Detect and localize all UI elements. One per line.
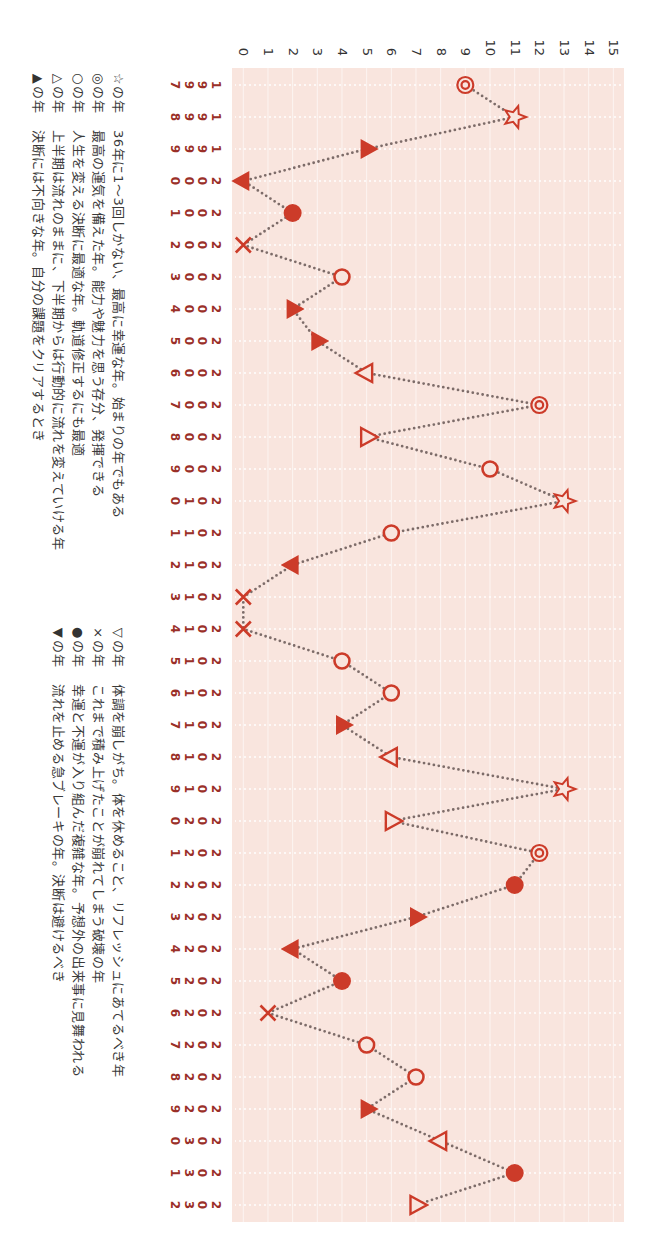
legend-item-triangle-down-outline: ▽の年 体調を崩しがち。体を休めること、リフレッシュにあてるべき年 <box>108 626 128 1077</box>
circle-marker-icon <box>384 686 399 701</box>
legend-item-double-circle: ◎の年 最高の運気を備えた年。能力や魅力を思う存分、発揮できる <box>88 72 108 551</box>
legend-item-cross: ×の年 これまで積み上げたことが崩れてしまう破壊の年 <box>88 626 108 1077</box>
value-tick-label: 9 <box>457 0 473 56</box>
year-tick-label: 2007 <box>168 399 222 411</box>
year-tick-label: 2028 <box>168 1071 222 1083</box>
legend-key-label: の年 <box>51 640 66 667</box>
value-tick-label: 5 <box>359 0 375 56</box>
legend-description: これまで積み上げたことが崩れてしまう破壊の年 <box>88 684 108 983</box>
year-tick-label: 2002 <box>168 239 222 251</box>
filled-circle-marker-icon <box>284 204 302 222</box>
year-tick-label: 1997 <box>168 79 222 91</box>
year-tick-label: 2027 <box>168 1039 222 1051</box>
plot-background <box>232 68 624 1222</box>
circle-marker-icon <box>359 1038 374 1053</box>
value-tick-label: 2 <box>285 0 301 56</box>
legend-item-triangle-down-filled: ▼の年 流れを止める急ブレーキの年。決断は避けるべき <box>48 626 68 1077</box>
rotated-chart-frame: 0123456789101112131415 19971998199920002… <box>0 0 648 1239</box>
legend-key-label: の年 <box>31 86 46 113</box>
triangle-up-outline-icon: △ <box>48 72 68 86</box>
value-tick-label: 3 <box>309 0 325 56</box>
double-circle-marker-icon <box>531 845 547 861</box>
legend-item-triangle-up-outline: △の年 上半期は流れのままに、下半期からは行動的に流れを変えていける年 <box>48 72 68 551</box>
double-circle-icon: ◎ <box>88 72 108 86</box>
value-tick-label: 13 <box>556 0 572 56</box>
year-tick-label: 2003 <box>168 271 222 283</box>
year-tick-label: 2026 <box>168 1007 222 1019</box>
year-tick-label: 2016 <box>168 687 222 699</box>
value-tick-label: 14 <box>581 0 597 56</box>
year-tick-label: 2029 <box>168 1103 222 1115</box>
circle-marker-icon <box>334 654 349 669</box>
legend-key-label: の年 <box>71 86 86 113</box>
legend-description: 流れを止める急ブレーキの年。決断は避けるべき <box>48 684 68 983</box>
year-tick-label: 1998 <box>168 111 222 123</box>
legend-item-star: ☆の年 36年に1～3回しかない、最高に幸運な年。始まりの年でもある <box>108 72 128 551</box>
legend-key-label: の年 <box>71 640 86 667</box>
year-tick-label: 2008 <box>168 431 222 443</box>
year-tick-label: 2025 <box>168 975 222 987</box>
circle-marker-icon <box>483 462 498 477</box>
double-circle-marker-icon <box>531 397 547 413</box>
year-tick-label: 2004 <box>168 303 222 315</box>
legend-description: 人生を変える決断に最適な年。軌道修正するにも最適 <box>68 130 88 456</box>
legend-description: 上半期は流れのままに、下半期からは行動的に流れを変えていける年 <box>48 130 68 551</box>
legend-description: 36年に1～3回しかない、最高に幸運な年。始まりの年でもある <box>108 130 128 519</box>
year-tick-label: 2014 <box>168 623 222 635</box>
year-tick-label: 2012 <box>168 559 222 571</box>
star-icon: ☆ <box>108 72 128 86</box>
value-tick-label: 8 <box>433 0 449 56</box>
value-tick-label: 15 <box>605 0 621 56</box>
value-tick-label: 4 <box>334 0 350 56</box>
year-tick-label: 2020 <box>168 815 222 827</box>
year-tick-label: 2032 <box>168 1199 222 1211</box>
triangle-down-outline-icon: ▽ <box>108 626 128 640</box>
year-tick-label: 2031 <box>168 1167 222 1179</box>
year-tick-label: 2005 <box>168 335 222 347</box>
value-tick-label: 6 <box>383 0 399 56</box>
year-tick-label: 2019 <box>168 783 222 795</box>
filled-circle-marker-icon <box>333 972 351 990</box>
year-tick-label: 2030 <box>168 1135 222 1147</box>
value-tick-label: 7 <box>408 0 424 56</box>
legend-key-label: の年 <box>91 640 106 667</box>
legend-key-label: の年 <box>51 86 66 113</box>
filled-circle-marker-icon <box>506 1164 524 1182</box>
filled-circle-icon: ● <box>68 626 88 640</box>
year-tick-label: 2021 <box>168 847 222 859</box>
circle-marker-icon <box>334 270 349 285</box>
filled-circle-marker-icon <box>506 876 524 894</box>
value-tick-label: 0 <box>235 0 251 56</box>
year-tick-label: 2013 <box>168 591 222 603</box>
year-tick-label: 2011 <box>168 527 222 539</box>
year-tick-label: 2017 <box>168 719 222 731</box>
legend-left: ☆の年 36年に1～3回しかない、最高に幸運な年。始まりの年でもある ◎の年 最… <box>28 72 128 551</box>
value-tick-label: 12 <box>531 0 547 56</box>
cross-icon: × <box>88 626 108 640</box>
legend-description: 決断には不向きな年。自分の課題をクリアするとき <box>28 130 48 443</box>
year-tick-label: 2018 <box>168 751 222 763</box>
year-tick-label: 2022 <box>168 879 222 891</box>
legend-key-label: の年 <box>111 640 126 667</box>
value-tick-label: 11 <box>507 0 523 56</box>
year-tick-label: 2000 <box>168 175 222 187</box>
year-tick-label: 2023 <box>168 911 222 923</box>
value-tick-label: 1 <box>260 0 276 56</box>
legend-description: 体調を崩しがち。体を休めること、リフレッシュにあてるべき年 <box>108 684 128 1077</box>
year-tick-label: 2001 <box>168 207 222 219</box>
legend-key-label: の年 <box>111 86 126 113</box>
year-tick-label: 2010 <box>168 495 222 507</box>
legend-item-circle: ○の年 人生を変える決断に最適な年。軌道修正するにも最適 <box>68 72 88 551</box>
legend-item-filled-circle: ●の年 幸運と不運が入り組んだ複雑な年。予想外の出来事に見舞われる <box>68 626 88 1077</box>
triangle-up-filled-icon: ▲ <box>28 72 48 86</box>
triangle-down-filled-icon: ▼ <box>48 626 68 640</box>
double-circle-marker-icon <box>457 77 473 93</box>
legend-description: 幸運と不運が入り組んだ複雑な年。予想外の出来事に見舞われる <box>68 684 88 1077</box>
legend-item-triangle-up-filled: ▲の年 決断には不向きな年。自分の課題をクリアするとき <box>28 72 48 551</box>
year-tick-label: 1999 <box>168 143 222 155</box>
legend-key-label: の年 <box>91 86 106 113</box>
value-tick-label: 10 <box>482 0 498 56</box>
year-tick-label: 2015 <box>168 655 222 667</box>
circle-icon: ○ <box>68 72 88 86</box>
legend-right: ▽の年 体調を崩しがち。体を休めること、リフレッシュにあてるべき年 ×の年 これ… <box>48 626 128 1077</box>
